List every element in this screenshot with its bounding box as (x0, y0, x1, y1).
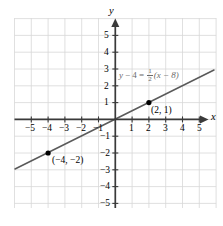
y-tick-label-neg4: −4 (100, 182, 110, 192)
y-tick-label-3: 3 (104, 65, 109, 75)
x-tick-label-neg5: −5 (25, 124, 35, 134)
x-tick-label-3: 3 (163, 124, 168, 134)
x-tick-label-neg2: −2 (76, 124, 86, 134)
fraction-denominator: 2 (147, 75, 153, 83)
equation-minus-four: − 4 = (125, 71, 144, 80)
point-label-neg4-neg2: (−4, −2) (52, 156, 83, 166)
equation-annotation: y − 4 = 1 2 (x − 8) (119, 68, 179, 83)
y-tick-label-4: 4 (104, 48, 109, 58)
x-tick-label-neg4: −4 (42, 124, 52, 134)
y-tick-label-neg5: −5 (100, 199, 110, 209)
x-tick-label-2: 2 (146, 124, 151, 134)
x-axis-label: x (211, 112, 216, 123)
y-tick-label-2: 2 (104, 82, 109, 92)
x-tick-label-1: 1 (129, 124, 134, 134)
coordinate-graph-figure: y x −5 −4 −3 −2 −1 1 2 3 4 5 5 4 3 2 1 −… (0, 0, 223, 226)
y-axis (111, 19, 119, 209)
point-label-2-1: (2, 1) (151, 106, 172, 116)
y-axis-label: y (109, 6, 114, 17)
data-point-marker-2 (46, 150, 51, 155)
y-tick-label-neg3: −3 (100, 166, 110, 176)
x-tick-label-5: 5 (197, 124, 202, 134)
y-tick-label-1: 1 (104, 98, 109, 108)
equation-rhs: (x − 8) (154, 71, 179, 80)
x-tick-label-neg3: −3 (59, 124, 69, 134)
y-tick-label-5: 5 (104, 31, 109, 41)
equation-fraction: 1 2 (147, 68, 153, 83)
x-tick-label-4: 4 (180, 124, 185, 134)
equation-lhs: y (119, 71, 123, 80)
y-tick-label-neg1: −1 (100, 132, 110, 142)
plot-canvas (0, 0, 223, 226)
y-tick-label-neg2: −2 (100, 149, 110, 159)
fraction-numerator: 1 (147, 68, 153, 75)
